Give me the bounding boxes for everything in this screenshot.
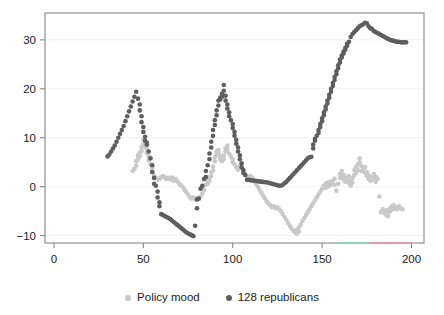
data-point (193, 224, 198, 229)
data-point (230, 126, 235, 131)
data-point (221, 83, 226, 88)
legend-entry-128-republicans[interactable]: 128 republicans (226, 292, 319, 304)
data-point (230, 122, 235, 127)
data-point (225, 102, 230, 107)
data-point (157, 204, 162, 209)
data-point (145, 140, 150, 145)
data-point (332, 177, 337, 182)
data-point (357, 156, 362, 161)
data-point (209, 145, 214, 150)
data-point (339, 169, 344, 174)
data-point (134, 163, 139, 168)
data-point (139, 120, 144, 125)
data-point (148, 156, 153, 161)
data-point (127, 109, 132, 114)
data-point (216, 103, 221, 108)
y-tick-label: −10 (16, 230, 36, 242)
data-point (213, 159, 218, 164)
data-point (207, 151, 212, 156)
data-point (157, 200, 162, 205)
data-point (225, 106, 230, 111)
data-point (232, 130, 237, 135)
data-point (221, 157, 226, 162)
data-point (146, 149, 151, 154)
legend-marker-icon (226, 295, 232, 301)
data-point (404, 40, 409, 45)
scatter-plot: −100102030 050100150200 (0, 0, 444, 315)
data-point (311, 146, 316, 151)
data-point (377, 194, 382, 199)
y-tick-label: 20 (23, 83, 36, 95)
x-tick-label: 100 (223, 253, 242, 265)
data-point (207, 157, 212, 162)
data-point (221, 153, 226, 158)
data-point (239, 161, 244, 166)
data-point (336, 181, 341, 186)
data-point (155, 195, 160, 200)
data-point (386, 214, 391, 219)
y-tick-label: 10 (23, 132, 36, 144)
data-point (238, 157, 243, 162)
data-point (229, 118, 234, 123)
data-point (125, 114, 130, 119)
data-point (134, 89, 139, 94)
data-point (309, 155, 314, 160)
data-point (236, 149, 241, 154)
data-point (120, 128, 125, 133)
data-point (214, 113, 219, 118)
data-point (211, 134, 216, 139)
data-point (114, 139, 119, 144)
data-point (141, 125, 146, 130)
data-point (112, 143, 117, 148)
data-point (211, 168, 216, 173)
data-point (298, 223, 303, 228)
chart-figure: −100102030 050100150200 Policy mood 128 … (0, 0, 444, 315)
data-point (213, 123, 218, 128)
data-point (143, 135, 148, 140)
data-point (400, 207, 405, 212)
data-point (234, 141, 239, 146)
data-point (155, 189, 160, 194)
data-point (214, 108, 219, 113)
chart-legend: Policy mood 128 republicans (0, 285, 444, 311)
data-point (223, 93, 228, 98)
data-point (137, 108, 142, 113)
x-tick-label: 200 (402, 253, 421, 265)
legend-label-policy-mood: Policy mood (137, 292, 200, 304)
data-point (227, 114, 232, 119)
data-point (350, 181, 355, 186)
data-point (121, 124, 126, 129)
x-tick-label: 150 (313, 253, 332, 265)
legend-marker-icon (125, 295, 131, 301)
data-point (152, 176, 157, 181)
data-point (227, 110, 232, 115)
data-point (209, 174, 214, 179)
data-point (232, 134, 237, 139)
data-point (234, 137, 239, 142)
data-point (238, 153, 243, 158)
data-point (204, 169, 209, 174)
legend-entry-policy-mood[interactable]: Policy mood (125, 292, 200, 304)
data-point (205, 163, 210, 168)
data-point (137, 102, 142, 107)
data-point (211, 164, 216, 169)
data-point (236, 145, 241, 150)
x-tick-label: 0 (51, 253, 57, 265)
data-point (375, 177, 380, 182)
data-point (200, 183, 205, 188)
data-point (347, 40, 352, 45)
y-tick-label: 0 (30, 181, 36, 193)
data-point (243, 173, 248, 178)
data-point (225, 143, 230, 148)
data-point (200, 191, 205, 196)
data-point (137, 154, 142, 159)
data-point (139, 114, 144, 119)
legend-label-128-republicans: 128 republicans (238, 292, 319, 304)
data-point (223, 98, 228, 103)
data-point (225, 147, 230, 152)
data-point (211, 128, 216, 133)
data-point (196, 196, 201, 201)
data-point (334, 188, 339, 193)
data-point (311, 142, 316, 147)
data-point (136, 96, 141, 101)
